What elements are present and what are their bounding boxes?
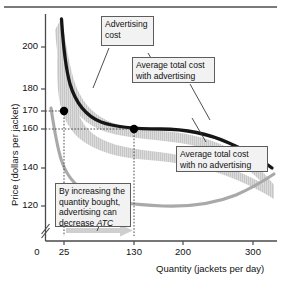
y-tick-180: 180 <box>10 83 38 94</box>
y-tick-160: 160 <box>10 123 38 134</box>
data-point-25-170 <box>60 107 68 115</box>
callout-atc-no-advertising-line2: with no advertising <box>180 160 264 171</box>
y-tick-120: 120 <box>10 200 38 211</box>
callout-atc-with-advertising-line1: Average total cost <box>136 60 211 71</box>
y-tick-200: 200 <box>10 41 38 52</box>
callout-quantity-note-line2: quantity bought, <box>59 197 127 208</box>
callout-quantity-note-line4-text: decrease <box>59 218 97 228</box>
callout-atc-with-advertising-line2: with advertising <box>136 71 211 82</box>
x-tick-25: 25 <box>52 247 76 258</box>
x-tick-200: 200 <box>169 247 197 258</box>
callout-atc-with-advertising: Average total cost with advertising <box>132 57 215 83</box>
callout-quantity-note-atc-emphasis: ATC <box>97 218 114 228</box>
figure-container: Price (dollars per jacket) 200 180 170 1… <box>0 0 281 282</box>
callout-atc-no-advertising-line1: Average total cost <box>180 149 264 160</box>
data-point-130-160 <box>130 125 138 133</box>
x-tick-130: 130 <box>120 247 148 258</box>
callout-advertising-cost-line1: Advertising <box>105 19 150 30</box>
y-axis-title: Price (dollars per jacket) <box>10 104 21 206</box>
callout-advertising-cost: Advertising cost <box>101 16 154 46</box>
callout-quantity-note-line3: advertising can <box>59 207 127 218</box>
callout-quantity-note: By increasing the quantity bought, adver… <box>55 183 131 227</box>
callout-advertising-cost-line2: cost <box>105 30 150 41</box>
y-tick-140: 140 <box>10 162 38 173</box>
x-tick-300: 300 <box>239 247 267 258</box>
y-axis-ticks <box>41 47 46 206</box>
y-tick-170: 170 <box>10 105 38 116</box>
callout-quantity-note-line4: decrease ATC <box>59 218 127 229</box>
callout-atc-no-advertising: Average total cost with no advertising <box>176 146 268 172</box>
callout-quantity-note-line1: By increasing the <box>59 186 127 197</box>
x-axis-title: Quantity (jackets per day) <box>156 264 264 275</box>
origin-zero-label: 0 <box>30 247 44 258</box>
